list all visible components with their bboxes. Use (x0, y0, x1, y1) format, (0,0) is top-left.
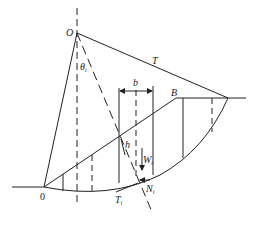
shear-force-line (116, 183, 138, 192)
angle-label: θi (80, 61, 87, 73)
radial-dashed-line (77, 33, 152, 212)
crest-label: B (171, 87, 177, 98)
shear-force-label: Ti (115, 194, 123, 206)
radius-to-toe (44, 33, 77, 187)
height-label: h (125, 139, 130, 150)
normal-force-label: Ni (145, 183, 155, 195)
center-label: O (66, 27, 73, 38)
tension-label: T (152, 55, 159, 66)
slope-stability-diagram: O θi T b B 0 h Wi Ni Ti (0, 0, 257, 225)
slice-width-label: b (133, 77, 138, 88)
weight-label: Wi (143, 154, 153, 166)
toe-label: 0 (40, 191, 45, 202)
